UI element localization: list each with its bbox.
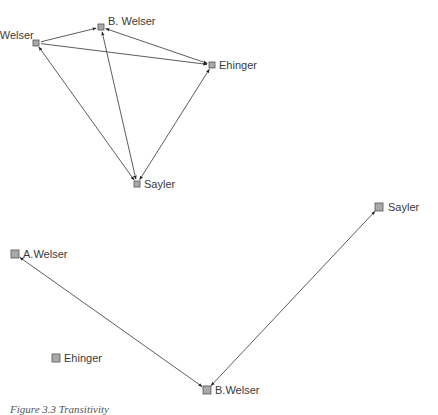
node-undirected-graph-sa (375, 203, 383, 211)
node-label: Sayler (144, 178, 176, 190)
edge-undirected-graph-aw-bw (20, 257, 202, 386)
node-directed-graph-aw (33, 40, 39, 46)
figure-caption: Figure 3.3 Transitivity (10, 403, 109, 415)
edges (20, 28, 375, 386)
node-directed-graph-bw (98, 24, 104, 30)
node-directed-graph-sa (134, 181, 140, 187)
node-undirected-graph-aw (11, 250, 19, 258)
edge-directed-graph-aw-eh (41, 44, 207, 65)
node-undirected-graph-eh (52, 354, 60, 362)
node-label: B. Welser (108, 15, 156, 27)
node-label: A.Welser (23, 248, 68, 260)
edge-directed-graph-aw-bw (41, 28, 96, 42)
edge-undirected-graph-sa-bw (211, 211, 375, 385)
node-directed-graph-eh (209, 62, 215, 68)
edge-directed-graph-eh-sa (140, 69, 210, 180)
node-label: B.Welser (215, 384, 260, 396)
node-label: Ehinger (64, 352, 102, 364)
node-undirected-graph-bw (203, 386, 211, 394)
edge-directed-graph-bw-sa (102, 32, 136, 179)
node-label: Ehinger (219, 59, 257, 71)
nodes: A. WelserB. WelserEhingerSaylerA.WelserE… (0, 15, 420, 396)
edge-directed-graph-aw-sa (39, 47, 134, 180)
node-label: Sayler (388, 201, 420, 213)
node-label: A. Welser (0, 29, 34, 41)
